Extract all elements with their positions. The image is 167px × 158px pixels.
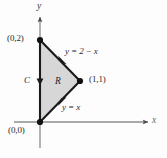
point-label-1-1: (1,1) [89, 75, 106, 84]
y-axis-label: y [37, 2, 41, 12]
vertex-dot-1-1 [77, 78, 83, 84]
curve-label-lower: y = x [62, 103, 80, 112]
point-label-0-2: (0,2) [7, 34, 24, 43]
vertex-dot-0-2 [37, 37, 43, 43]
vertex-dot-0-0 [37, 119, 43, 125]
region-label-r: R [55, 77, 61, 87]
curve-label-c: C [24, 76, 30, 85]
x-axis-label: x [152, 116, 156, 126]
point-label-0-0: (0,0) [8, 126, 25, 135]
figure-container: y x (0,2) (1,1) (0,0) C R y = 2 − x y = … [0, 0, 167, 158]
curve-label-upper: y = 2 − x [65, 47, 98, 56]
